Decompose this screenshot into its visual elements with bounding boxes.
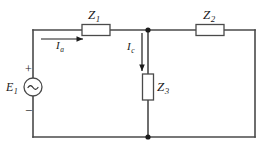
node-top-junction [145,27,150,32]
circuit-diagram: Z1 Z2 Z3 Ia Ic E1 + − [0,0,271,152]
impedance-z1-label: Z1 [88,8,100,21]
current-ia-label: Ia [56,40,63,51]
ac-source-label: E1 [6,81,17,93]
node-bottom-junction [145,134,150,139]
current-ic-arrow-head [139,65,145,72]
impedance-z3-body [143,74,154,100]
current-ic-label: Ic [127,41,134,52]
current-ia-arrow-head [77,36,84,42]
polarity-minus-sign: − [25,104,32,117]
polarity-plus-sign: + [25,63,32,75]
circuit-schematic-canvas [0,0,271,152]
impedance-z2-body [196,25,224,36]
impedance-z2-label: Z2 [203,8,215,21]
impedance-z1-body [82,25,110,36]
impedance-z3-label: Z3 [157,80,169,93]
